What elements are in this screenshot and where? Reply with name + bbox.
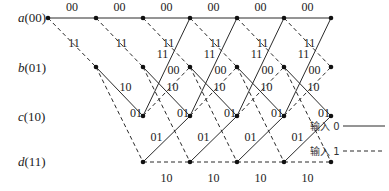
edge-label-d-d: 10 — [161, 171, 173, 185]
node-b-4 — [235, 65, 240, 70]
node-c-3 — [188, 114, 193, 119]
edge-label-c-b: 00 — [309, 63, 321, 77]
edge-label-a-a: 00 — [208, 0, 220, 14]
edge-label-c-b: 00 — [168, 63, 180, 77]
edge-label-b-d: 01 — [130, 106, 142, 120]
edge-label-a-a: 00 — [66, 0, 78, 14]
edge-label-c-a: 11 — [157, 47, 169, 61]
edge-label-c-a: 11 — [251, 47, 263, 61]
node-b-2 — [141, 65, 146, 70]
edge-label-c-b: 00 — [262, 63, 274, 77]
edge-label-d-d: 10 — [208, 171, 220, 185]
edge-label-b-c: 10 — [167, 80, 179, 94]
node-d-4 — [235, 160, 240, 165]
edge-label-b-c: 10 — [308, 80, 320, 94]
node-a-4 — [235, 16, 240, 21]
edge-label-d-c: 01 — [151, 130, 163, 144]
node-a-1 — [94, 16, 99, 21]
node-a-3 — [188, 16, 193, 21]
state-label-b: b(01) — [18, 60, 46, 75]
edge-label-b-d: 01 — [177, 106, 189, 120]
node-b-6 — [329, 65, 334, 70]
edge-label-b-c: 10 — [120, 80, 132, 94]
state-label-d: d(11) — [18, 154, 46, 169]
trellis-edge-labels: 0011001110010011101100100101001110110010… — [66, 0, 330, 185]
edge-label-d-c: 01 — [245, 130, 257, 144]
edge-label-d-d: 10 — [255, 171, 267, 185]
node-c-5 — [282, 114, 287, 119]
node-c-6 — [329, 114, 334, 119]
legend: 输入 0 输入 1 — [310, 120, 385, 157]
edge-label-a-a: 00 — [114, 0, 126, 14]
node-d-3 — [188, 160, 193, 165]
legend-input0-label: 输入 0 — [310, 120, 340, 132]
trellis-edges — [48, 18, 331, 162]
edge-label-c-b: 00 — [215, 63, 227, 77]
edge-label-b-d: 01 — [271, 106, 283, 120]
edge-c-to-a — [190, 18, 237, 116]
node-d-5 — [282, 160, 287, 165]
node-b-1 — [94, 65, 99, 70]
edge-label-b-c: 10 — [214, 80, 226, 94]
edge-label-d-d: 10 — [302, 171, 314, 185]
node-a-2 — [141, 16, 146, 21]
legend-input1-label: 输入 1 — [310, 145, 340, 157]
edge-label-a-a: 00 — [161, 0, 173, 14]
edge-label-d-c: 01 — [292, 130, 304, 144]
node-d-2 — [141, 160, 146, 165]
edge-c-to-a — [284, 18, 331, 116]
edge-label-a-a: 00 — [302, 0, 314, 14]
edge-c-to-a — [143, 18, 190, 116]
edge-c-to-a — [237, 18, 284, 116]
edge-label-d-c: 01 — [198, 130, 210, 144]
node-a-0 — [46, 16, 51, 21]
edge-label-a-b: 11 — [116, 36, 128, 50]
node-c-4 — [235, 114, 240, 119]
trellis-diagram: 0011001110010011101100100101001110110010… — [0, 0, 389, 191]
edge-label-a-b: 11 — [68, 36, 80, 50]
node-d-6 — [329, 160, 334, 165]
edge-label-c-a: 11 — [298, 47, 310, 61]
node-b-5 — [282, 65, 287, 70]
node-c-2 — [141, 114, 146, 119]
edge-label-a-a: 00 — [255, 0, 267, 14]
node-a-6 — [329, 16, 334, 21]
edge-label-b-d: 01 — [224, 106, 236, 120]
edge-label-b-c: 10 — [261, 80, 273, 94]
node-b-3 — [188, 65, 193, 70]
edge-label-b-d: 01 — [318, 106, 330, 120]
trellis-nodes — [46, 16, 334, 165]
state-label-c: c(10) — [18, 109, 45, 124]
state-label-a: a(00) — [18, 10, 46, 25]
node-a-5 — [282, 16, 287, 21]
edge-label-c-a: 11 — [204, 47, 216, 61]
